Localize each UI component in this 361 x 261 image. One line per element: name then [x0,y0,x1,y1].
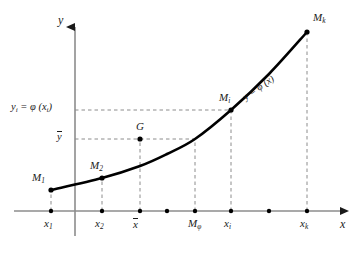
x-tick-label-8: xk [300,218,308,231]
x-axis-dot [100,209,104,213]
point-label-Mk: Mk [313,12,326,25]
curve-point-dot-Mk [304,29,309,34]
y-value-label-yi-equals-phi-xi: yi = φ (xi) [11,102,52,114]
x-tick-label-1: x2 [95,218,104,231]
x-tick-label-5: Mφ [188,218,201,231]
y-value-label-y-bar: y [57,131,62,143]
point-label-Mi: Mi [219,92,230,105]
x-tick-label-0: x1 [44,218,53,231]
x-axis-dot [193,209,197,213]
point-label-M1: M1 [32,172,45,185]
x-axis-dot [49,209,53,213]
curve-point-dot-M2 [99,175,104,180]
x-axis-dot [138,209,142,213]
axes-group [14,27,340,236]
x-axis-dot [165,209,169,213]
curve-point-dot-Mi [228,107,233,112]
x-axis-label: x [340,218,345,230]
plot-dots [48,29,309,213]
math-figure-canvas: y x y = φ (x) M1M2MiMkG x1x2xMφxixk yi =… [0,0,361,261]
point-label-G: G [136,121,144,132]
x-tick-label-6: xi [224,218,231,231]
y-axis-label: y [58,14,63,26]
x-tick-label-3: x [133,218,138,230]
x-axis-dot [267,209,271,213]
x-axis-dot [305,209,309,213]
dashed-guide-lines [51,32,307,211]
x-axis-dot [229,209,233,213]
curve-point-dot-M1 [48,187,53,192]
point-label-M2: M2 [90,160,103,173]
curve-point-dot-G [137,136,142,141]
